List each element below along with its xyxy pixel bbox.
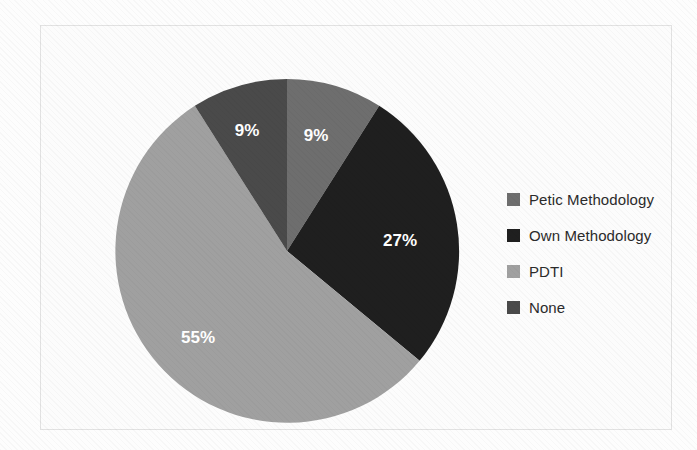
pie-label-none: 9% (235, 121, 260, 140)
legend-item-own-methodology[interactable]: Own Methodology (507, 217, 697, 253)
legend-label-pdti: PDTI (529, 263, 564, 280)
legend-label-none: None (529, 299, 565, 316)
legend-swatch-icon-own-methodology (507, 229, 520, 242)
chart-legend: Petic Methodology Own Methodology PDTI N… (507, 181, 697, 325)
pie-label-petic-methodology: 9% (304, 126, 329, 145)
pie-svg: 9% 27% 55% 9% (112, 76, 462, 426)
legend-swatch-icon-pdti (507, 265, 520, 278)
legend-swatch-icon-none (507, 301, 520, 314)
legend-item-petic-methodology[interactable]: Petic Methodology (507, 181, 697, 217)
chart-frame: 9% 27% 55% 9% Petic Methodology Own Meth… (40, 25, 672, 430)
legend-item-pdti[interactable]: PDTI (507, 253, 697, 289)
pie-chart: 9% 27% 55% 9% (112, 76, 462, 426)
pie-label-own-methodology: 27% (383, 231, 417, 250)
legend-swatch-icon-petic-methodology (507, 193, 520, 206)
chart-page: 9% 27% 55% 9% Petic Methodology Own Meth… (0, 0, 697, 450)
legend-item-none[interactable]: None (507, 289, 697, 325)
legend-label-own-methodology: Own Methodology (529, 227, 651, 244)
legend-label-petic-methodology: Petic Methodology (529, 191, 654, 208)
pie-label-pdti: 55% (181, 328, 215, 347)
